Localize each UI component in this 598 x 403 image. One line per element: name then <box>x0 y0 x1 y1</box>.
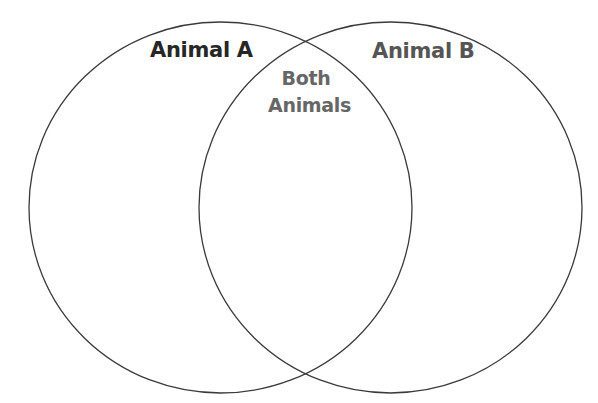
label-both-line2: Animals <box>268 92 344 119</box>
label-both-animals: Both Animals <box>268 65 344 119</box>
label-animal-a: Animal A <box>150 40 253 61</box>
label-animal-b: Animal B <box>372 41 475 62</box>
circle-animal-b <box>199 22 582 393</box>
venn-diagram <box>0 0 598 403</box>
circle-animal-a <box>29 22 412 393</box>
label-both-line1: Both <box>268 65 344 92</box>
